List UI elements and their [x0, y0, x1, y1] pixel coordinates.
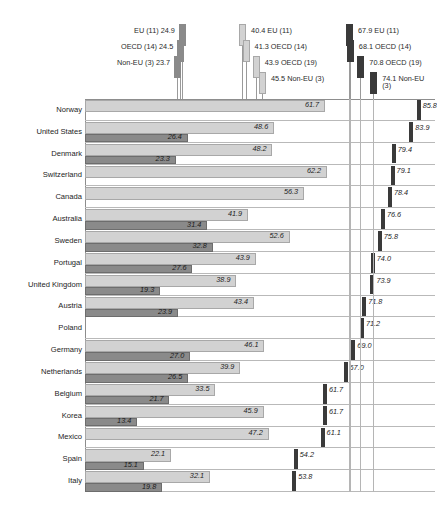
marker-value-label: 53.8 — [298, 473, 312, 480]
marker-high — [294, 449, 298, 469]
bar-value-label: 56.3 — [284, 188, 298, 195]
category-label: Italy — [68, 477, 82, 485]
marker-value-label: 85.8 — [423, 102, 437, 109]
marker-value-label: 61.7 — [329, 408, 343, 415]
bar-mid — [85, 231, 290, 243]
legend-label: EU (11) 24.9 — [134, 27, 178, 34]
bar-value-label: 48.2 — [252, 145, 266, 152]
bar-value-label: 19.3 — [140, 286, 154, 293]
bar-value-label: 41.9 — [228, 210, 242, 217]
legend-swatch — [259, 72, 266, 94]
reference-line-plot — [180, 99, 181, 492]
row-separator — [85, 338, 435, 339]
category-axis: NorwayUnited StatesDenmarkSwitzerlandCan… — [0, 99, 82, 492]
reference-line-plot-high — [373, 99, 374, 492]
marker-high — [344, 362, 348, 382]
bar-mid — [85, 100, 325, 112]
reference-leader-line — [246, 62, 247, 99]
legend-label: 41.3 OECD (14) — [252, 43, 307, 50]
category-label: Sweden — [55, 237, 82, 245]
row-separator — [85, 185, 435, 186]
reference-line-plot-high — [360, 99, 361, 492]
legend-label: 40.4 EU (11) — [248, 27, 292, 34]
marker-high — [362, 297, 366, 317]
legend-label: 43.9 OECD (19) — [262, 59, 317, 66]
legend-swatch — [347, 40, 354, 62]
legend-label: 67.9 EU (11) — [355, 27, 399, 34]
marker-value-label: 67.0 — [350, 364, 364, 371]
reference-leader-line — [360, 78, 361, 99]
category-label: Mexico — [58, 433, 82, 441]
bar-value-label: 21.7 — [149, 395, 163, 402]
legend-label: 45.5 Non-EU (3) — [268, 75, 324, 82]
category-label: Belgium — [55, 390, 82, 398]
marker-high — [292, 471, 296, 491]
reference-leader-line — [256, 78, 257, 99]
marker-high — [392, 144, 396, 164]
legend-label: 70.8 OECD (19) — [366, 59, 421, 66]
reference-line-plot — [242, 99, 243, 492]
reference-line-plot — [177, 99, 178, 492]
bar-value-label: 22.1 — [151, 450, 165, 457]
legend-swatch — [357, 56, 364, 78]
reference-line-plot — [182, 99, 183, 492]
marker-high — [323, 406, 327, 426]
marker-value-label: 75.8 — [384, 233, 398, 240]
reference-line-plot — [246, 99, 247, 492]
category-label: Denmark — [51, 150, 82, 158]
bar-mid — [85, 362, 240, 374]
marker-value-label: 54.2 — [300, 451, 314, 458]
bar-mid — [85, 406, 264, 418]
legend-swatch — [243, 40, 250, 62]
legend-label: 74.1 Non-EU (3) — [379, 75, 435, 90]
category-label: Norway — [56, 106, 82, 114]
row-separator — [85, 426, 435, 427]
marker-value-label: 61.1 — [327, 429, 341, 436]
bar-value-label: 19.8 — [142, 483, 156, 490]
marker-high — [409, 122, 413, 142]
legend-label: OECD (14) 24.5 — [121, 43, 176, 50]
marker-value-label: 74.0 — [377, 255, 391, 262]
marker-value-label: 83.9 — [415, 124, 429, 131]
marker-value-label: 76.6 — [387, 211, 401, 218]
marker-value-label: 78.4 — [394, 189, 408, 196]
bar-value-label: 38.9 — [216, 276, 230, 283]
category-label: Netherlands — [41, 368, 82, 376]
reference-leader-line — [177, 78, 178, 99]
category-label: Australia — [52, 215, 82, 223]
category-label: Switzerland — [43, 171, 82, 179]
bar-value-label: 23.3 — [156, 155, 170, 162]
category-label: Germany — [51, 346, 82, 354]
row-separator — [85, 207, 435, 208]
bar-value-label: 61.7 — [305, 101, 319, 108]
bar-value-label: 33.5 — [195, 385, 209, 392]
category-label: Korea — [62, 412, 82, 420]
legend-swatch — [174, 56, 181, 78]
bar-value-label: 52.6 — [270, 232, 284, 239]
bar-value-label: 39.9 — [220, 363, 234, 370]
bar-value-label: 13.4 — [117, 417, 131, 424]
bar-value-label: 62.2 — [307, 167, 321, 174]
marker-high — [391, 166, 395, 186]
bar-mid — [85, 166, 327, 178]
category-label: United Kingdom — [28, 281, 82, 289]
marker-value-label: 79.1 — [397, 167, 411, 174]
marker-value-label: 79.4 — [398, 146, 412, 153]
marker-high — [378, 231, 382, 251]
marker-high — [388, 187, 392, 207]
reference-line-plot — [262, 99, 263, 492]
reference-line-plot — [256, 99, 257, 492]
row-separator — [85, 120, 435, 121]
bar-mid — [85, 275, 236, 287]
reference-leader-line — [350, 62, 351, 99]
bar-value-label: 31.4 — [187, 221, 201, 228]
marker-high — [321, 428, 325, 448]
bar-mid — [85, 144, 272, 156]
reference-line-plot-high — [350, 99, 351, 492]
bar-value-label: 32.8 — [193, 242, 207, 249]
category-label: Canada — [55, 193, 82, 201]
legend-swatch — [370, 72, 377, 94]
plot-area: 61.785.848.626.483.948.223.379.462.279.1… — [85, 99, 435, 492]
category-label: Spain — [63, 455, 82, 463]
bar-value-label: 23.9 — [158, 308, 172, 315]
